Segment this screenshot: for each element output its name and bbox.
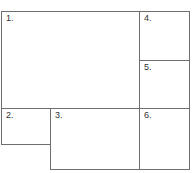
panel-5-label: 5. xyxy=(144,62,152,72)
panel-5: 5. xyxy=(139,60,190,109)
panel-1-label: 1. xyxy=(6,13,14,23)
panel-6: 6. xyxy=(139,108,190,170)
panel-2-label: 2. xyxy=(6,110,14,120)
panel-3: 3. xyxy=(50,108,140,170)
panel-1: 1. xyxy=(1,11,140,109)
panel-3-label: 3. xyxy=(55,110,63,120)
panel-4-label: 4. xyxy=(144,13,152,23)
panel-6-label: 6. xyxy=(144,110,152,120)
panel-4: 4. xyxy=(139,11,190,61)
panel-2: 2. xyxy=(1,108,51,145)
